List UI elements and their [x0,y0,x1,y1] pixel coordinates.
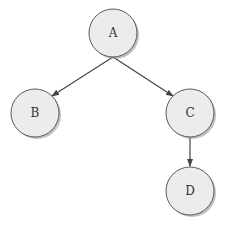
edge-a-c [113,57,173,96]
node-d: D [166,167,216,217]
tree-diagram: ABCD [0,0,226,228]
edge-a-b [52,57,113,96]
node-label: D [185,184,195,198]
node-c: C [166,89,216,139]
node-b: B [11,89,61,139]
nodes: ABCD [11,9,216,217]
node-label: B [31,106,40,120]
node-label: C [185,106,194,120]
node-a: A [89,9,139,59]
node-label: A [108,26,118,40]
